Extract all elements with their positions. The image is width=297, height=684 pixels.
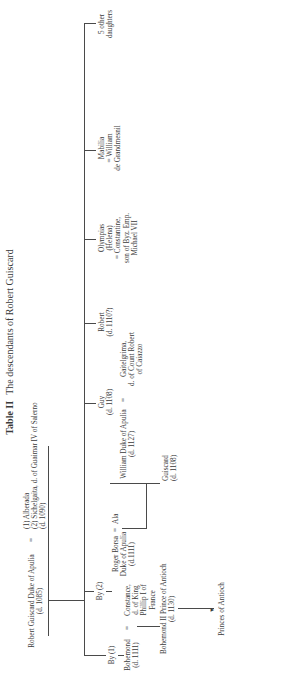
connector <box>146 483 147 484</box>
others-line: 5 other <box>98 4 106 44</box>
mabilia-line: de Grandmesnil <box>114 120 122 176</box>
mabilia-drop <box>84 150 96 151</box>
guiscard: Guiscard (d. 1108) <box>162 448 178 488</box>
root-marriage-symbol: = <box>28 538 36 542</box>
spouse-1: (1) Alberada <box>23 402 31 529</box>
william-name: William Duke of Apulia <box>120 404 128 484</box>
roger-dates: (d.1111) <box>128 524 136 584</box>
ala: Ala <box>112 514 120 524</box>
robert-name: Robert <box>98 300 106 344</box>
olympias-line: = Constantine, <box>114 210 122 266</box>
princes-of-antioch: Princes of Antioch <box>218 564 226 654</box>
by2-label: By (2) <box>96 574 104 608</box>
william: William Duke of Apulia (d. 1127) <box>120 404 136 484</box>
genealogy-diagram: Table IIThe descendants of Robert Guisca… <box>0 0 297 684</box>
guiscard-drop <box>146 483 160 484</box>
children-bar <box>84 23 85 656</box>
william-dates: (d. 1127) <box>128 404 136 484</box>
william-marriage-symbol: = <box>120 398 128 402</box>
mabilia-line: Mabilia <box>98 120 106 176</box>
robert-dates: (d. 1110?) <box>106 300 114 344</box>
gaitelgrima: Gaitelgrima, d. of Count Robert of Caiaz… <box>120 324 145 394</box>
olympias-line: son of Byz. Emp. <box>123 210 131 266</box>
others-line: daughters <box>106 4 114 44</box>
robert-drop <box>84 323 96 324</box>
guy-dates: (d. 1108) <box>106 382 114 422</box>
table-number: Table II <box>4 401 15 435</box>
roger-name: Roger Borsa <box>112 524 120 584</box>
roger-children-bar <box>146 484 147 529</box>
guy-drop <box>84 403 96 404</box>
olympias-drop <box>84 239 96 240</box>
gaitelgrima-line: Gaitelgrima, <box>120 324 128 394</box>
bohemond-ii-dates: (d. 1130) <box>168 564 176 654</box>
marriage-line <box>48 446 49 636</box>
bohemond: Bohemond (d. 1111) <box>124 630 140 680</box>
gaitelgrima-line: d. of Count Robert <box>128 324 136 394</box>
descent-line <box>48 600 84 601</box>
roger-borsa: Roger Borsa Duke of Apulia (d.1111) <box>112 524 137 584</box>
by2-tick <box>106 591 112 592</box>
bohemond-descent <box>137 626 159 627</box>
root-dates: (d. 1085) <box>36 546 44 656</box>
by2-drop <box>84 591 94 592</box>
other-daughters: 5 other daughters <box>98 4 114 44</box>
olympias-line: Michael VII <box>131 210 139 266</box>
guiscard-dates: (d. 1108) <box>170 448 178 488</box>
bohemond-name: Bohemond <box>124 630 132 680</box>
roger-title: Duke of Apulia <box>120 524 128 584</box>
by1-drop <box>84 655 106 656</box>
guiscard-name: Guiscard <box>162 448 170 488</box>
bohemond-ii-name: Bohemond II Prince of Antioch <box>160 564 168 654</box>
table-caption: The descendants of Robert Guiscard <box>4 249 15 395</box>
roger-marriage-symbol: = <box>112 528 120 532</box>
guy-name: Guy <box>98 382 106 422</box>
olympias-line: (Helena) <box>106 210 114 266</box>
guy: Guy (d. 1108) <box>98 382 114 422</box>
arrow-head-icon: ▼ <box>208 607 216 613</box>
root-name: Robert Guiscard Duke of Apulia <box>28 546 36 656</box>
roger-descent <box>122 528 146 529</box>
robert: Robert (d. 1110?) <box>98 300 114 344</box>
spouse-2-dates: (d. 1090) <box>39 402 47 529</box>
gaitelgrima-line: of Caiazzo <box>136 324 144 394</box>
olympias: Olympias (Helena) = Constantine, son of … <box>98 210 139 266</box>
bohemond-ii: Bohemond II Prince of Antioch (d. 1130) <box>160 564 176 654</box>
root-person: Robert Guiscard Duke of Apulia (d. 1085) <box>28 546 44 656</box>
mabilia-line: = William <box>106 120 114 176</box>
spouse-2: (2) Sichelgaita, d. of Guaimar IV of Sal… <box>31 402 39 529</box>
root-spouses: (1) Alberada (2) Sichelgaita, d. of Guai… <box>23 402 48 529</box>
constance-line: Phillip I of <box>140 576 148 624</box>
mabilia: Mabilia = William de Grandmesnil <box>98 120 123 176</box>
by1-label: By (1) <box>108 638 116 672</box>
table-title: Table IIThe descendants of Robert Guisca… <box>6 0 14 684</box>
constance-line: France <box>149 576 157 624</box>
others-drop <box>84 23 96 24</box>
olympias-line: Olympias <box>98 210 106 266</box>
bohemond-dates: (d. 1111) <box>132 630 140 680</box>
bohemond-marriage-symbol: = <box>124 626 132 630</box>
